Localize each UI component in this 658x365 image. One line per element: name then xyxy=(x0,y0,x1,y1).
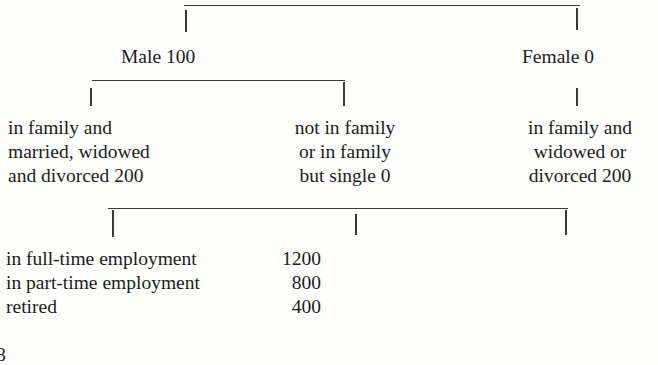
cropped-fragment: 8 xyxy=(0,344,6,365)
male-split-connector xyxy=(92,80,345,81)
list-item: in full-time employment 1200 xyxy=(6,247,321,271)
root-connector xyxy=(184,5,580,6)
male-not-in-family-node: not in family or in family but single 0 xyxy=(265,116,425,188)
male-node: Male 100 xyxy=(121,45,195,69)
employment-tick-left xyxy=(112,210,114,237)
female-node: Female 0 xyxy=(522,45,594,69)
female-in-family-node: in family and widowed or divorced 200 xyxy=(502,116,658,188)
female-branch-tick xyxy=(576,8,578,30)
employment-connector xyxy=(108,208,568,209)
female-in-family-tick xyxy=(576,88,578,106)
list-item: in part-time employment 800 xyxy=(6,271,321,295)
male-in-family-node: in family and married, widowed and divor… xyxy=(8,116,150,188)
employment-tick-middle xyxy=(355,214,357,235)
male-not-in-family-tick xyxy=(343,82,345,106)
male-in-family-tick xyxy=(90,88,92,106)
employment-list: in full-time employment 1200 in part-tim… xyxy=(6,247,321,319)
male-branch-tick xyxy=(185,10,187,32)
list-item: retired 400 xyxy=(6,295,321,319)
employment-tick-right xyxy=(565,210,567,235)
